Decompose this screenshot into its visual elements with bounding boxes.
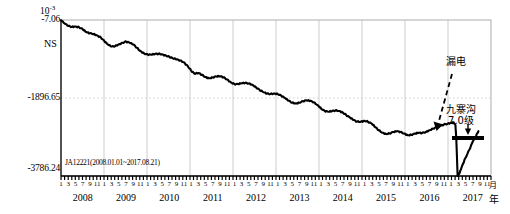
x-year-tick-label: 2011: [193, 192, 233, 203]
y-tick-label-bottom: -3786.24: [0, 163, 60, 173]
x-axis-unit-year: 年: [489, 191, 499, 206]
x-year-tick-label: 2009: [106, 192, 146, 203]
y-tick-label-top: -7.06: [0, 14, 60, 24]
x-year-tick-label: 2015: [366, 192, 406, 203]
year-gridlines: [104, 20, 448, 176]
component-label-ns: NS: [44, 38, 57, 49]
y-tick-label-middle: -1896.65: [0, 92, 60, 102]
x-year-tick-label: 2008: [63, 192, 103, 203]
seismic-strain-chart: 10-3 -7.06 -1896.65 -3786.24 NS JA12221(…: [0, 0, 510, 214]
annotation-earthquake: 九寨沟 7.0级: [446, 105, 476, 126]
x-year-tick-label: 2012: [236, 192, 276, 203]
x-year-tick-label: 2017: [453, 192, 493, 203]
x-year-tick-label: 2010: [149, 192, 189, 203]
x-year-tick-label: 2016: [409, 192, 449, 203]
annotation-earthquake-name: 九寨沟: [446, 105, 476, 116]
earthquake-marker-bar: [452, 136, 484, 140]
x-axis-month-labels: 1357911135791113579111357911135791113579…: [61, 180, 491, 191]
x-year-tick-label: 2013: [279, 192, 319, 203]
annotation-earthquake-magnitude: 7.0级: [446, 116, 476, 127]
x-axis-year-labels: 2008200920102011201220132014201520162017: [61, 192, 491, 206]
station-period-label: JA12221(2008.01.01~2017.08.21): [65, 158, 160, 167]
annotation-leakage: 漏电: [446, 57, 466, 68]
x-axis-unit-month: 月: [489, 179, 497, 190]
exponent-power: -3: [50, 4, 56, 12]
x-year-tick-label: 2014: [323, 192, 363, 203]
